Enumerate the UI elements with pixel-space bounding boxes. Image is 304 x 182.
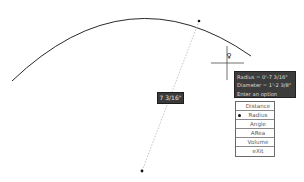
menu-item-label: Volume xyxy=(248,139,269,145)
pick-box-icon: ♀ xyxy=(226,53,232,60)
option-menu: Distance Radius Angle ARea Volume eXit xyxy=(235,101,275,157)
arc-point-marker xyxy=(198,20,201,23)
dimension-label: 7 3/16" xyxy=(157,92,184,104)
arc[interactable] xyxy=(12,18,251,81)
menu-item-exit[interactable]: eXit xyxy=(236,147,274,156)
menu-item-label: ARea xyxy=(251,130,265,136)
measure-tooltip: Radius = 0'-7 3/16" Diameter = 1'-2 3/8"… xyxy=(234,71,296,98)
menu-item-label: Angle xyxy=(250,121,266,127)
menu-item-label: Distance xyxy=(246,103,270,109)
menu-item-angle[interactable]: Angle xyxy=(236,120,274,129)
selected-bullet-icon xyxy=(238,114,241,117)
menu-item-radius[interactable]: Radius xyxy=(236,111,274,120)
menu-item-volume[interactable]: Volume xyxy=(236,138,274,147)
menu-item-label: Radius xyxy=(249,112,268,118)
tooltip-radius: Radius = 0'-7 3/16" xyxy=(237,73,293,81)
menu-item-label: eXit xyxy=(252,148,263,154)
menu-item-area[interactable]: ARea xyxy=(236,129,274,138)
tooltip-prompt: Enter an option xyxy=(237,90,293,98)
menu-item-distance[interactable]: Distance xyxy=(236,102,274,111)
center-point-marker xyxy=(141,170,144,173)
tooltip-diameter: Diameter = 1'-2 3/8" xyxy=(237,81,293,89)
